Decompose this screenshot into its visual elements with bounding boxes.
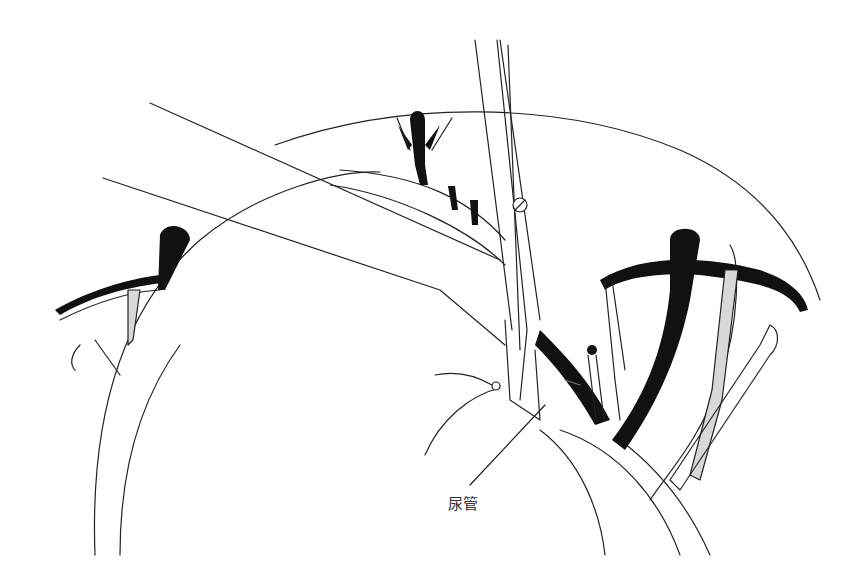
leader-line: [470, 405, 545, 485]
urethra-label: 尿管: [448, 492, 478, 513]
organ-outline: [94, 172, 380, 555]
left-retractor-dark: [158, 226, 190, 290]
suture: [425, 373, 500, 455]
surgical-illustration: [0, 0, 852, 587]
organ-right: [120, 345, 180, 555]
retractor-blade: [103, 103, 505, 345]
